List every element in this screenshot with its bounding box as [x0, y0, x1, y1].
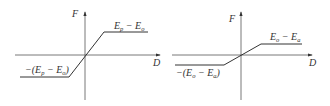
lower-plateau-label: −(Ep − Eo) — [25, 64, 70, 76]
diagram-canvas: F D Ep − Eo −(Ep − Eo) F D Eo − Ea −(Eo … — [0, 0, 330, 106]
upper-plateau-label: Ep − Eo — [113, 20, 145, 32]
force-displacement-curve — [175, 44, 302, 65]
y-axis-label: F — [228, 13, 236, 24]
y-axis-label: F — [71, 8, 79, 19]
lower-plateau-label: −(Eo − Ea) — [176, 67, 221, 79]
x-axis-label: D — [152, 57, 161, 68]
left-diagram: F D Ep − Eo −(Ep − Eo) — [15, 8, 161, 100]
upper-plateau-label: Eo − Ea — [269, 31, 300, 43]
x-axis-label: D — [308, 57, 317, 68]
right-diagram: F D Eo − Ea −(Eo − Ea) — [172, 12, 317, 100]
